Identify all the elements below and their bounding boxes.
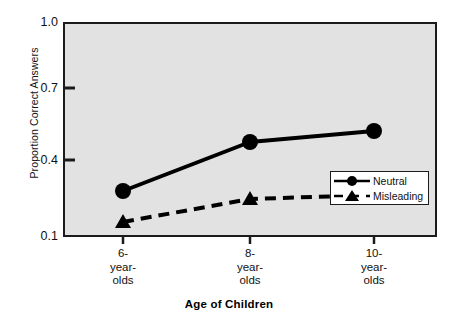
y-tick-label-3: 0.4 — [28, 153, 58, 167]
x-tick-line-1: 8- — [205, 247, 295, 261]
y-tick-marks — [63, 88, 75, 160]
x-tick-line-3: olds — [205, 274, 295, 288]
y-tick-label-2: 0.7 — [28, 81, 58, 95]
x-tick-line-3: olds — [78, 274, 168, 288]
chart-legend: Neutral Misleading — [330, 171, 429, 205]
legend-key-misleading-icon — [331, 188, 373, 204]
x-axis-label: Age of Children — [0, 298, 458, 310]
legend-item-misleading: Misleading — [331, 188, 430, 204]
x-tick-line-3: olds — [329, 274, 419, 288]
y-tick-label-1: 1.0 — [28, 15, 58, 29]
legend-item-neutral: Neutral — [331, 173, 430, 189]
x-tick-line-2: year- — [329, 261, 419, 275]
chart-figure: Proportion Correct Answers 1.0 0.7 0.4 0… — [0, 0, 458, 323]
x-tick-label-8-year-olds: 8- year- olds — [205, 247, 295, 288]
marker-neutral-0 — [115, 183, 131, 199]
x-tick-label-6-year-olds: 6- year- olds — [78, 247, 168, 288]
x-tick-line-1: 6- — [78, 247, 168, 261]
legend-key-neutral-icon — [331, 173, 373, 189]
y-tick-label-4: 0.1 — [28, 229, 58, 243]
x-tick-line-2: year- — [78, 261, 168, 275]
x-tick-line-1: 10- — [329, 247, 419, 261]
marker-neutral-2 — [366, 123, 382, 139]
x-tick-line-2: year- — [205, 261, 295, 275]
y-tick-label-group: 1.0 0.7 0.4 0.1 — [26, 0, 58, 323]
x-tick-marks — [63, 237, 437, 245]
legend-label-neutral: Neutral — [373, 175, 407, 187]
legend-label-misleading: Misleading — [373, 190, 423, 202]
x-tick-label-10-year-olds: 10- year- olds — [329, 247, 419, 288]
marker-neutral-1 — [242, 134, 258, 150]
